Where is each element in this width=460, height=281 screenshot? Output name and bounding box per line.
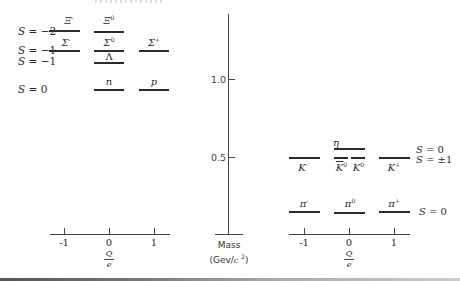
meson-strangeness-label-pm1: S = ±1 [416,154,452,165]
particle-label-neutron: n [95,77,123,87]
fraction-denominator: e [347,260,352,269]
particle-label-proton: p [140,77,168,87]
meson-charge-axis-label: Q e [343,250,355,269]
particle-label-k-zero: K0 [350,163,367,173]
mass-axis-base [215,234,243,235]
particle-label-sigma-minus: Σ- [55,38,77,48]
mass-tick-1.0 [229,79,235,80]
energy-level-pi-plus [379,211,410,213]
meson-tick-label-0: 0 [341,238,357,248]
energy-level-eta [334,148,365,150]
energy-level-proton [139,89,169,91]
baryon-tick-label-minus1: -1 [56,238,72,248]
energy-level-k-zero [351,157,365,159]
meson-strangeness-label-zero-pi: S = 0 [419,206,447,217]
strangeness-label-minus1-lambda: S = −1 [18,56,56,67]
mass-unit-label: (Gev/c 2) [199,251,259,267]
meson-tick-0 [349,228,350,234]
baryon-tick-1 [154,228,155,234]
meson-charge-axis [289,234,410,235]
energy-level-pi-minus [289,211,320,213]
meson-tick-label-minus1: -1 [296,238,312,248]
energy-level-k-plus [379,157,410,159]
baryon-tick-0 [109,228,110,234]
particle-label-pi-minus: π- [297,199,311,209]
particle-label-sigma-plus: Σ+ [140,38,168,48]
particle-label-k-bar-zero: K0 [333,163,350,173]
energy-level-xi-zero [94,31,124,33]
energy-level-sigma-minus [49,50,80,52]
fraction-numerator: Q [346,249,353,258]
meson-tick-label-1: 1 [386,238,402,248]
particle-label-xi-minus: Ξ- [58,16,80,26]
particle-label-xi-zero: Ξ0 [95,16,123,26]
mass-tick-0.5 [229,157,235,158]
energy-level-lambda [94,62,124,64]
mass-label: Mass [199,239,259,251]
particle-label-k-plus: K+ [385,163,403,173]
particle-label-eta: η [330,138,342,148]
energy-level-neutron [94,89,124,91]
mass-tick-label-1.0: 1.0 [202,75,226,85]
baryon-charge-axis [50,234,170,235]
mass-tick-label-0.5: 0.5 [202,153,226,163]
particle-label-lambda: Λ [95,52,123,62]
baryon-tick-label-0: 0 [101,238,117,248]
energy-level-sigma-plus [139,50,169,52]
particle-label-pi-zero: π0 [342,199,358,209]
meson-tick-minus1 [304,228,305,234]
strangeness-label-zero: S = 0 [18,84,47,95]
baryon-tick-minus1 [64,228,65,234]
energy-level-pi-zero [334,212,365,214]
energy-level-k-minus [289,157,320,159]
baryon-charge-axis-label: Q e [103,250,115,269]
particle-label-pi-plus: π+ [386,199,402,209]
fraction-numerator: Q [106,249,113,258]
baryon-tick-label-1: 1 [146,238,162,248]
mass-axis-title: Mass (Gev/c 2) [199,239,259,267]
particle-label-k-minus: K- [294,163,312,173]
energy-level-xi-minus [49,30,80,32]
energy-level-k-bar-zero [334,157,348,159]
mass-axis-line [228,14,229,234]
fraction-denominator: e [107,260,112,269]
particle-label-sigma-zero: Σ0 [95,38,123,48]
cropped-caption-remnant [95,0,165,3]
meson-tick-1 [394,228,395,234]
